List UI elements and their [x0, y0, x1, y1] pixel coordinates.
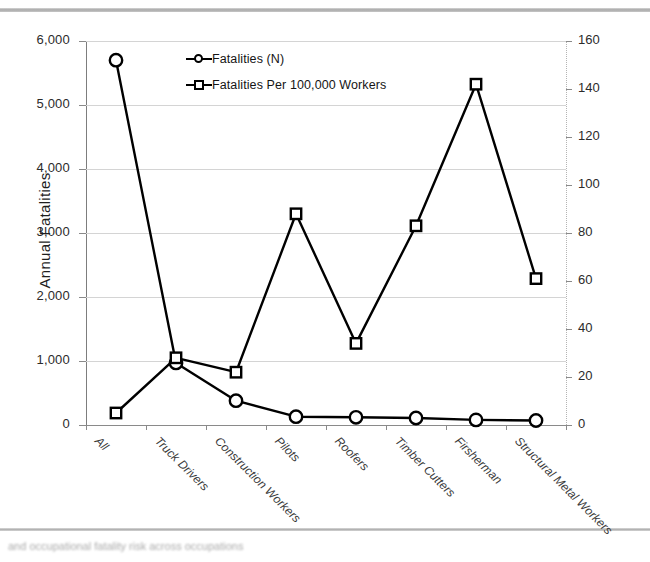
y-axis-right-tick-label: 0 — [578, 416, 624, 431]
x-axis-label-roofers: Roofers — [332, 434, 372, 474]
gridline — [86, 169, 566, 170]
gridline — [86, 361, 566, 362]
gridline — [86, 297, 566, 298]
chart-legend: Fatalities (N) Fatalities Per 100,000 Wo… — [186, 48, 436, 100]
x-axis-tick-mark — [206, 425, 207, 430]
y-axis-right-tick-label: 140 — [578, 80, 624, 95]
gridline — [86, 105, 566, 106]
y-axis-left-title: Annual Fatalities — [36, 101, 53, 361]
y-axis-right-tick-mark — [566, 41, 572, 42]
y-axis-right-tick-label: 40 — [578, 320, 624, 335]
legend-item-fatalities-per-100k: Fatalities Per 100,000 Workers — [186, 74, 436, 96]
y-axis-left-tick-mark — [79, 361, 86, 362]
x-axis-label-timber-cutters: Timber Cutters — [392, 434, 458, 500]
y-axis-left-tick-mark — [79, 233, 86, 234]
y-axis-right-tick-mark — [566, 89, 572, 90]
y-axis-right-tick-label: 160 — [578, 32, 624, 47]
x-axis-label-firsherman: Firsherman — [452, 434, 505, 487]
x-axis-tick-mark — [506, 425, 507, 430]
gridline — [86, 233, 566, 234]
x-axis-tick-mark — [86, 425, 87, 430]
y-axis-right-tick-label: 120 — [578, 128, 624, 143]
x-axis-tick-mark — [146, 425, 147, 430]
x-axis-tick-mark — [446, 425, 447, 430]
y-axis-left-tick-mark — [79, 425, 86, 426]
x-axis-tick-mark — [386, 425, 387, 430]
x-axis-label-truck-drivers: Truck Drivers — [152, 434, 212, 494]
figure-caption: and occupational fatality risk across oc… — [8, 540, 642, 552]
figure-page: 01,0002,0003,0004,0005,0006,000 02040608… — [0, 0, 650, 562]
y-axis-right-tick-mark — [566, 233, 572, 234]
y-axis-left-tick-label: 6,000 — [8, 32, 70, 47]
circle-marker-icon — [186, 52, 212, 66]
chart-canvas: 01,0002,0003,0004,0005,0006,000 02040608… — [0, 0, 650, 562]
y-axis-right-tick-mark — [566, 137, 572, 138]
x-axis-label-all: All — [92, 434, 111, 453]
y-axis-right-tick-mark — [566, 329, 572, 330]
y-axis-right-tick-label: 20 — [578, 368, 624, 383]
y-axis-right-tick-label: 60 — [578, 272, 624, 287]
x-axis-tick-mark — [566, 425, 567, 430]
x-axis-label-structural-metal-workers: Structural Metal Workers — [512, 434, 615, 537]
y-axis-right-tick-mark — [566, 377, 572, 378]
y-axis-right-tick-mark — [566, 185, 572, 186]
legend-label-fatalities-per-100k: Fatalities Per 100,000 Workers — [212, 78, 386, 92]
legend-label-fatalities-n: Fatalities (N) — [212, 52, 284, 66]
y-axis-left-tick-mark — [79, 169, 86, 170]
y-axis-left-tick-mark — [79, 41, 86, 42]
y-axis-right-tick-label: 100 — [578, 176, 624, 191]
gridline — [86, 41, 566, 42]
legend-item-fatalities-n: Fatalities (N) — [186, 48, 436, 70]
x-axis-tick-mark — [326, 425, 327, 430]
y-axis-left-tick-mark — [79, 297, 86, 298]
y-axis-left-tick-mark — [79, 105, 86, 106]
y-axis-right-tick-label: 80 — [578, 224, 624, 239]
y-axis-right-tick-mark — [566, 281, 572, 282]
x-axis-label-pilots: Pilots — [272, 434, 303, 465]
y-axis-left-tick-label: 0 — [8, 416, 70, 431]
square-marker-icon — [186, 78, 212, 92]
x-axis-tick-mark — [266, 425, 267, 430]
